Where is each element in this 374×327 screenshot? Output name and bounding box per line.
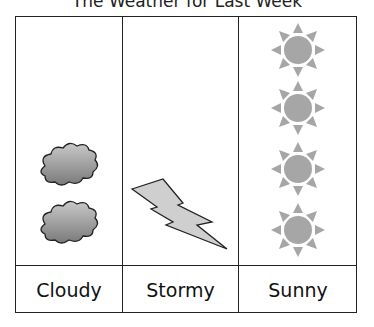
cloud-icon [41,143,98,185]
sun-icon [271,203,325,257]
category-label-sunny: Sunny [239,267,357,313]
lightning-icon [132,179,227,249]
sun-icon [271,142,325,196]
cloud-icon [41,201,98,243]
category-label-stormy: Stormy [123,267,238,313]
category-label-cloudy: Cloudy [16,267,122,313]
sun-icon [271,23,325,77]
sun-icon [271,81,325,135]
